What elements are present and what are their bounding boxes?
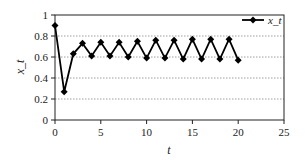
data-point-diamond-icon: [207, 36, 214, 43]
legend-diamond-marker-icon: [250, 17, 257, 24]
x-tick-label: 15: [187, 126, 199, 138]
data-point-diamond-icon: [235, 57, 242, 64]
y-tick-label: 0.6: [34, 51, 48, 63]
y-tick-label: 0.8: [34, 30, 48, 42]
line-chart: 00.20.40.60.81 0510152025 t x_t x_t: [0, 0, 305, 161]
y-tick-label: 0.2: [34, 93, 48, 105]
y-tick-label: 0.4: [34, 72, 48, 84]
x-tick-label: 20: [233, 126, 245, 138]
x-axis-label: t: [167, 143, 171, 157]
gridlines: [55, 36, 284, 99]
x-tick-label: 5: [98, 126, 104, 138]
axes: [55, 15, 284, 120]
x-axis-ticks: 0510152025: [52, 120, 290, 138]
y-tick-label: 0: [43, 114, 49, 126]
data-point-diamond-icon: [143, 55, 150, 62]
y-tick-label: 1: [43, 9, 49, 21]
legend: x_t: [242, 14, 282, 26]
data-point-diamond-icon: [189, 36, 196, 43]
x-tick-label: 25: [279, 126, 291, 138]
data-point-diamond-icon: [226, 36, 233, 43]
data-point-diamond-icon: [161, 55, 168, 62]
data-point-diamond-icon: [52, 22, 59, 29]
y-axis-ticks: 00.20.40.60.81: [34, 9, 55, 126]
data-point-diamond-icon: [152, 37, 159, 44]
x-tick-label: 0: [52, 126, 58, 138]
legend-label: x_t: [267, 14, 282, 26]
x-tick-label: 10: [141, 126, 153, 138]
data-point-diamond-icon: [171, 37, 178, 44]
series-x_t: [52, 22, 242, 95]
y-axis-label: x_t: [13, 59, 27, 75]
plot-frame: [55, 15, 284, 120]
data-point-diamond-icon: [180, 56, 187, 63]
data-point-diamond-icon: [61, 88, 68, 95]
